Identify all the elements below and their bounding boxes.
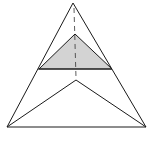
- background: [0, 0, 155, 142]
- geometry-diagram: [0, 0, 155, 142]
